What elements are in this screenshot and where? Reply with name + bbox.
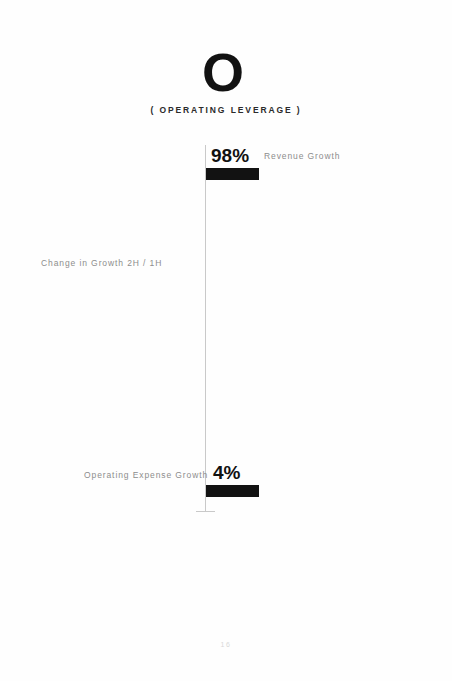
vertical-axis-line bbox=[205, 145, 206, 512]
axis-baseline-tick bbox=[196, 511, 215, 512]
revenue-growth-bar bbox=[206, 168, 259, 180]
axis-title: Change in Growth 2H / 1H bbox=[41, 259, 162, 268]
revenue-growth-label: Revenue Growth bbox=[264, 152, 340, 161]
operating-leverage-chart: Change in Growth 2H / 1H 98% Revenue Gro… bbox=[0, 0, 452, 681]
operating-expense-growth-bar bbox=[206, 485, 259, 497]
page-number: 16 bbox=[0, 641, 452, 648]
operating-expense-growth-label: Operating Expense Growth bbox=[84, 471, 208, 480]
revenue-growth-value: 98% bbox=[211, 146, 249, 165]
slide-page: O ( OPERATING LEVERAGE ) Change in Growt… bbox=[0, 0, 452, 681]
operating-expense-growth-value: 4% bbox=[213, 463, 240, 482]
